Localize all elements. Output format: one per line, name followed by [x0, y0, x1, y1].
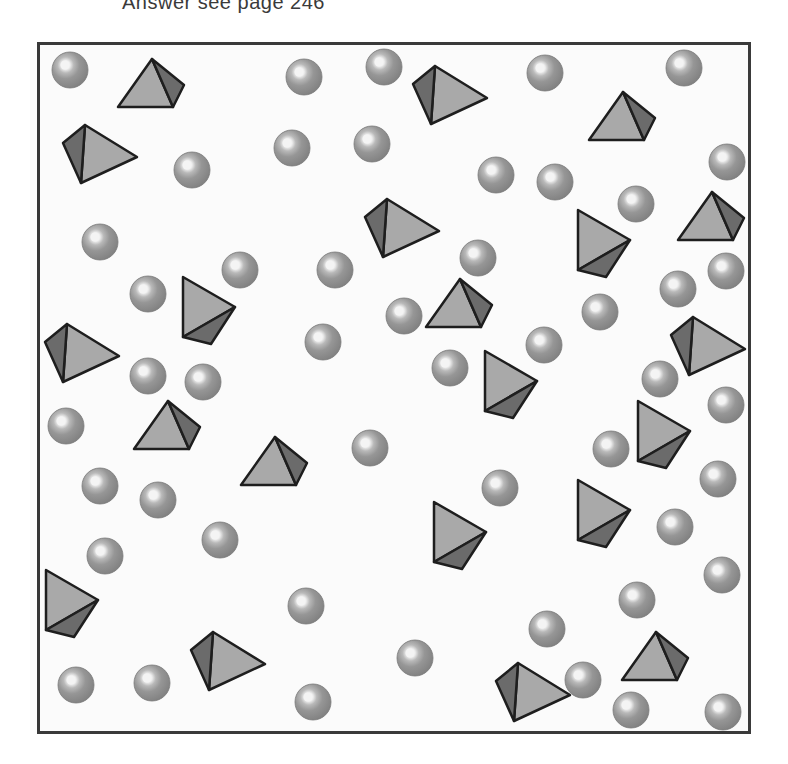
sphere-icon	[52, 52, 88, 88]
pyramid-icon	[589, 92, 655, 140]
sphere-icon	[704, 557, 740, 593]
sphere-icon	[82, 224, 118, 260]
pyramid-icon	[671, 317, 745, 375]
sphere-icon	[397, 640, 433, 676]
pyramid-icon	[578, 480, 630, 547]
sphere-icon	[482, 470, 518, 506]
sphere-icon	[140, 482, 176, 518]
pyramid-icon	[426, 279, 492, 327]
pyramid-icon	[413, 66, 487, 124]
sphere-icon	[174, 152, 210, 188]
pyramid-icon	[434, 502, 486, 569]
pyramid-icon	[46, 570, 98, 637]
sphere-icon	[352, 430, 388, 466]
pyramid-icon	[183, 277, 235, 344]
pyramid-icon	[63, 125, 137, 183]
sphere-icon	[527, 55, 563, 91]
sphere-icon	[478, 157, 514, 193]
sphere-icon	[666, 50, 702, 86]
sphere-icon	[700, 461, 736, 497]
sphere-icon	[705, 694, 741, 730]
sphere-icon	[657, 509, 693, 545]
sphere-icon	[642, 361, 678, 397]
sphere-icon	[708, 387, 744, 423]
sphere-icon	[354, 126, 390, 162]
pyramid-icon	[496, 663, 570, 721]
pyramid-icon	[678, 192, 744, 240]
sphere-icon	[660, 271, 696, 307]
sphere-icon	[432, 350, 468, 386]
sphere-icon	[87, 538, 123, 574]
pyramid-icon	[118, 59, 184, 107]
puzzle-scene	[0, 0, 788, 764]
sphere-icon	[134, 665, 170, 701]
sphere-icon	[58, 667, 94, 703]
sphere-icon	[286, 59, 322, 95]
pyramid-icon	[191, 632, 265, 690]
sphere-icon	[317, 252, 353, 288]
sphere-icon	[460, 240, 496, 276]
sphere-icon	[130, 358, 166, 394]
sphere-icon	[565, 662, 601, 698]
sphere-icon	[366, 49, 402, 85]
sphere-icon	[526, 327, 562, 363]
sphere-icon	[537, 164, 573, 200]
sphere-icon	[274, 130, 310, 166]
sphere-icon	[709, 144, 745, 180]
sphere-icon	[185, 364, 221, 400]
sphere-icon	[618, 186, 654, 222]
spheres-layer	[48, 49, 745, 730]
pyramid-icon	[622, 632, 688, 680]
sphere-icon	[613, 692, 649, 728]
sphere-icon	[202, 522, 238, 558]
sphere-icon	[48, 408, 84, 444]
pyramid-icon	[134, 401, 200, 449]
sphere-icon	[305, 324, 341, 360]
sphere-icon	[529, 611, 565, 647]
sphere-icon	[130, 276, 166, 312]
sphere-icon	[288, 588, 324, 624]
sphere-icon	[386, 298, 422, 334]
sphere-icon	[593, 431, 629, 467]
sphere-icon	[222, 252, 258, 288]
sphere-icon	[295, 684, 331, 720]
pyramid-icon	[365, 199, 439, 257]
sphere-icon	[82, 468, 118, 504]
pyramid-icon	[578, 210, 630, 277]
pyramid-icon	[45, 324, 119, 382]
sphere-icon	[708, 253, 744, 289]
pyramid-icon	[485, 351, 537, 418]
sphere-icon	[582, 294, 618, 330]
pyramid-icon	[241, 437, 307, 485]
sphere-icon	[619, 582, 655, 618]
pyramid-icon	[638, 401, 690, 468]
